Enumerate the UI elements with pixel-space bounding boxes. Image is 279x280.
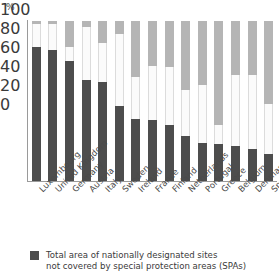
bar-segment-mid [214,125,223,144]
bar-segment-dark [48,50,57,181]
y-tick-20: 20 [0,76,20,95]
bar-segment-top [115,21,124,34]
bar-italy [98,21,107,181]
y-tick-100: 100 [0,0,31,19]
y-tick-0: 0 [0,95,10,114]
bar-segment-top [48,21,57,24]
bar-segment-mid [248,75,257,149]
bar-segment-mid [48,24,57,50]
bar-spain [264,21,273,181]
bar-ireland [131,21,140,181]
bar-segment-mid [231,75,240,145]
bar-segment-top [231,21,240,75]
bar-segment-top [32,21,41,24]
bar-segment-dark [32,47,41,181]
bar-segment-top [248,21,257,75]
legend-label-line2: not covered by special protection areas … [46,261,246,272]
bar-portugal [198,21,207,181]
y-tick-40: 40 [0,57,20,76]
bar-segment-top [214,21,223,125]
bar-united-kingdom [48,21,57,181]
bar-segment-mid [165,67,174,125]
bar-segment-top [181,21,190,90]
y-tick-60: 60 [0,38,20,57]
bar-segment-top [148,21,157,66]
bar-segment-mid [264,104,273,154]
bar-segment-top [165,21,174,67]
bar-netherlands [181,21,190,181]
bar-segment-mid [65,47,74,61]
x-axis-category-labels: LuxembourgUnited KingdomGermanyAustriaIt… [0,183,279,239]
bar-segment-mid [32,24,41,46]
legend: Total area of nationally designated site… [30,250,246,273]
bar-segment-top [82,21,91,27]
legend-swatch-dark [30,251,39,260]
bar-segment-mid [148,66,157,120]
bar-segment-mid [115,34,124,106]
bar-segment-top [98,21,107,43]
bar-denmark [248,21,257,181]
bar-segment-mid [198,85,207,143]
bar-luxembourg [32,21,41,181]
bar-segment-top [131,21,140,77]
bar-segment-mid [82,27,91,80]
bar-segment-top [65,21,74,47]
bar-segment-mid [131,77,140,119]
y-tick-80: 80 [0,19,20,38]
bar-segment-top [264,21,273,104]
bar-belgium [231,21,240,181]
stacked-bar-chart: % 100 80 60 40 20 0 LuxembourgUnited Kin… [0,0,279,280]
legend-label: Total area of nationally designated site… [46,250,246,273]
bar-finland [165,21,174,181]
bar-segment-mid [181,90,190,136]
legend-label-line1: Total area of nationally designated site… [46,250,246,261]
bar-segment-mid [98,43,107,81]
bar-france [148,21,157,181]
bar-segment-top [198,21,207,85]
bar-segment-dark [115,106,124,181]
bar-sweden [115,21,124,181]
